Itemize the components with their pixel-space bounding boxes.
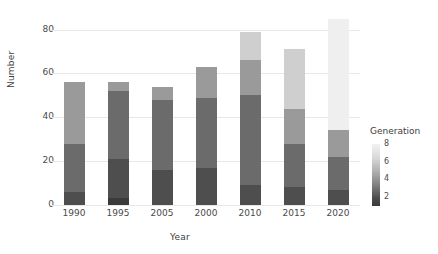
bar-segment-gen3[interactable] [328, 157, 349, 190]
gridline [52, 205, 360, 206]
bar-segment-gen4[interactable] [152, 87, 173, 100]
x-axis-title: Year [0, 232, 360, 242]
bar-segment-gen5[interactable] [240, 32, 261, 61]
bar-2000[interactable] [196, 12, 217, 205]
plot-area [52, 12, 360, 205]
y-tick-label: 60 [14, 67, 54, 77]
bar-segment-gen3[interactable] [64, 144, 85, 192]
bar-segment-gen6[interactable] [328, 19, 349, 131]
y-tick-label: 80 [14, 24, 54, 34]
bar-segment-gen2[interactable] [108, 159, 129, 198]
bar-segment-gen4[interactable] [240, 60, 261, 95]
bar-segment-gen2[interactable] [328, 190, 349, 205]
y-tick-label: 0 [14, 199, 54, 209]
bar-segment-gen3[interactable] [196, 98, 217, 168]
bar-segment-gen4[interactable] [108, 82, 129, 91]
legend-tick-label: 6 [384, 157, 389, 166]
x-tick-label: 2010 [227, 208, 273, 218]
x-tick-label: 2015 [271, 208, 317, 218]
legend-tick-label: 4 [384, 174, 389, 183]
bar-2005[interactable] [152, 12, 173, 205]
bar-segment-gen3[interactable] [284, 144, 305, 188]
bar-1995[interactable] [108, 12, 129, 205]
legend-title: Generation [370, 126, 420, 136]
bar-segment-gen4[interactable] [284, 109, 305, 144]
x-tick-label: 1990 [51, 208, 97, 218]
legend-tick-label: 2 [384, 192, 389, 201]
x-tick-label: 1995 [95, 208, 141, 218]
y-tick-label: 40 [14, 111, 54, 121]
bar-segment-gen4[interactable] [328, 130, 349, 156]
bar-segment-gen3[interactable] [108, 91, 129, 159]
bar-segment-gen2[interactable] [240, 185, 261, 205]
y-tick-label: 20 [14, 155, 54, 165]
y-axis-title: Number [6, 51, 16, 88]
bar-2010[interactable] [240, 12, 261, 205]
bar-segment-gen2[interactable] [64, 192, 85, 205]
x-tick-label: 2000 [183, 208, 229, 218]
stacked-bar-chart: Number Year 020406080 Generation 2468 19… [0, 0, 438, 254]
x-tick-label: 2020 [315, 208, 361, 218]
bar-segment-gen2[interactable] [284, 187, 305, 205]
bar-segment-gen4[interactable] [196, 67, 217, 98]
bar-segment-gen3[interactable] [152, 100, 173, 170]
bar-1990[interactable] [64, 12, 85, 205]
bar-2015[interactable] [284, 12, 305, 205]
bar-segment-gen3[interactable] [240, 95, 261, 185]
bar-segment-gen2[interactable] [152, 170, 173, 205]
x-tick-label: 2005 [139, 208, 185, 218]
bar-segment-gen2[interactable] [196, 168, 217, 205]
legend-tick-label: 8 [384, 139, 389, 148]
bar-2020[interactable] [328, 12, 349, 205]
legend-colorbar [372, 144, 380, 206]
bar-segment-gen1[interactable] [108, 198, 129, 205]
bar-segment-gen5[interactable] [284, 49, 305, 108]
bar-segment-gen4[interactable] [64, 82, 85, 143]
